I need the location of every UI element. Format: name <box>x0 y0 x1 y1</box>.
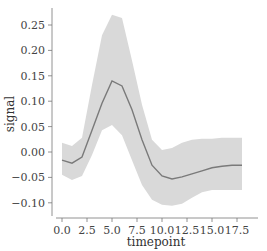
y-tick-label: 0.05 <box>21 121 46 134</box>
y-tick-label: 0.10 <box>21 95 46 108</box>
y-tick-label: −0.10 <box>11 197 45 210</box>
x-tick-label: 5.0 <box>103 224 121 237</box>
confidence-band <box>62 15 242 206</box>
x-axis-label: timepoint <box>127 235 186 249</box>
x-tick-label: 0.0 <box>53 224 71 237</box>
y-axis-label: signal <box>3 96 17 133</box>
y-tick-label: −0.05 <box>11 171 45 184</box>
y-tick-label: 0.00 <box>21 146 46 159</box>
x-tick-label: 2.5 <box>78 224 96 237</box>
x-tick-label: 15.0 <box>200 224 225 237</box>
line-chart: −0.10−0.050.000.050.100.150.200.250.02.5… <box>0 0 267 251</box>
y-tick-label: 0.20 <box>21 44 46 57</box>
y-tick-label: 0.15 <box>21 70 46 83</box>
y-tick-label: 0.25 <box>21 19 46 32</box>
x-tick-label: 17.5 <box>225 224 250 237</box>
